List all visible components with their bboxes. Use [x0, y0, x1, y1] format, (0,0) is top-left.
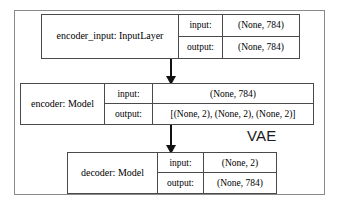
node-decoder-io-table: input: (None, 2) output: (None, 784): [158, 153, 276, 193]
vae-container-label: VAE: [247, 127, 277, 144]
node-encoder-input-row: input: (None, 784): [105, 84, 313, 104]
node-decoder[interactable]: decoder: Model input: (None, 2) output: …: [67, 152, 277, 194]
node-decoder-input-label: input:: [158, 153, 204, 172]
node-encoder-input-input-value: (None, 784): [223, 15, 299, 36]
node-encoder-input-label: encoder_input: InputLayer: [42, 15, 179, 58]
node-decoder-output-value: (None, 784): [204, 173, 276, 193]
node-encoder-input-output-label: output:: [179, 37, 223, 59]
node-encoder-output-row: output: [(None, 2), (None, 2), (None, 2)…: [105, 104, 313, 124]
node-encoder-output-label: output:: [105, 104, 153, 124]
node-encoder-label: encoder: Model: [21, 84, 105, 124]
arrow-line: [170, 125, 171, 147]
node-encoder-input-output-row: output: (None, 784): [179, 37, 299, 59]
node-encoder[interactable]: encoder: Model input: (None, 784) output…: [20, 83, 314, 125]
node-decoder-input-row: input: (None, 2): [158, 153, 276, 173]
node-encoder-input-label: input:: [105, 84, 153, 103]
node-encoder-input-input-label: input:: [179, 15, 223, 36]
node-encoder-input[interactable]: encoder_input: InputLayer input: (None, …: [41, 14, 300, 59]
node-decoder-label: decoder: Model: [68, 153, 158, 193]
node-encoder-input-output-value: (None, 784): [223, 37, 299, 59]
node-encoder-input-io-table: input: (None, 784) output: (None, 784): [179, 15, 299, 58]
node-decoder-output-row: output: (None, 784): [158, 173, 276, 193]
edge-arrow-encoder-to-decoder: [165, 125, 177, 154]
diagram-canvas: encoder_input: InputLayer input: (None, …: [0, 0, 337, 207]
edge-arrow-encoder-input-to-encoder: [165, 59, 177, 85]
node-encoder-input-value: (None, 784): [153, 84, 313, 103]
node-decoder-input-value: (None, 2): [204, 153, 276, 172]
node-decoder-output-label: output:: [158, 173, 204, 193]
node-encoder-input-input-row: input: (None, 784): [179, 15, 299, 37]
node-encoder-io-table: input: (None, 784) output: [(None, 2), (…: [105, 84, 313, 124]
node-encoder-output-value: [(None, 2), (None, 2), (None, 2)]: [153, 104, 313, 124]
